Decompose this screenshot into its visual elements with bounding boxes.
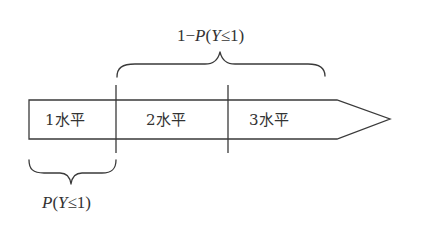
segment-label-3: 3水平 [249,111,289,129]
segment-label-2: 2水平 [146,111,186,129]
top-brace-label: 1−P(Y≤1) [177,26,244,45]
segment-label-1: 1水平 [45,111,85,129]
top-brace [117,52,325,77]
ordinal-levels-diagram: 1水平 2水平 3水平 1−P(Y≤1) P(Y≤1) [0,0,429,230]
bottom-brace [29,160,116,184]
bottom-brace-label: P(Y≤1) [41,193,91,212]
